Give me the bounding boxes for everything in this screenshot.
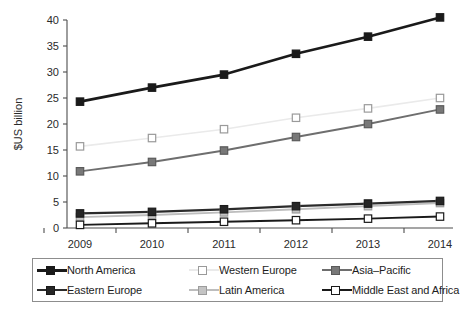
series-line-western-europe (80, 98, 440, 146)
data-point-eastern-europe (148, 208, 155, 215)
data-point-eastern-europe (292, 202, 299, 209)
legend-square-swatch (198, 286, 207, 295)
data-point-north-america (292, 50, 299, 57)
legend-item-latin-america[interactable]: Latin America (189, 281, 322, 299)
data-point-asia-pacific (436, 106, 443, 113)
legend-item-asia-pacific[interactable]: Asia–Pacific (322, 261, 448, 279)
x-tick-label: 2009 (68, 238, 92, 250)
line-chart: 0510152025303540200920102011201220132014… (0, 0, 475, 313)
data-point-asia-pacific (364, 120, 371, 127)
data-point-eastern-europe (76, 210, 83, 217)
legend-square-swatch (331, 286, 340, 295)
y-tick-label: 40 (47, 14, 59, 26)
x-tick-label: 2014 (428, 238, 452, 250)
y-tick-label: 5 (53, 196, 59, 208)
legend-square-swatch (331, 266, 340, 275)
series-line-north-america (80, 17, 440, 101)
legend-label: Eastern Europe (67, 284, 142, 296)
data-point-western-europe (148, 134, 155, 141)
data-point-western-europe (436, 94, 443, 101)
y-tick-label: 35 (47, 40, 59, 52)
legend-label: North America (67, 264, 135, 276)
data-point-asia-pacific (292, 133, 299, 140)
y-axis-title: $US billion (12, 98, 24, 151)
legend-label: Western Europe (219, 264, 297, 276)
y-tick-label: 30 (47, 66, 59, 78)
data-point-eastern-europe (436, 197, 443, 204)
chart-legend: North AmericaWestern EuropeAsia–PacificE… (32, 258, 443, 302)
legend-square-swatch (46, 266, 55, 275)
legend-label: Middle East and Africa (352, 284, 459, 296)
y-tick-label: 0 (53, 222, 59, 234)
data-point-middle-east-and-africa (364, 215, 371, 222)
data-point-middle-east-and-africa (76, 221, 83, 228)
x-tick-label: 2010 (140, 238, 164, 250)
data-point-north-america (364, 33, 371, 40)
legend-marker-asia-pacific-icon (322, 263, 352, 277)
legend-square-swatch (198, 266, 207, 275)
y-tick-label: 25 (47, 92, 59, 104)
data-point-middle-east-and-africa (436, 213, 443, 220)
y-tick-label: 10 (47, 170, 59, 182)
legend-square-swatch (46, 286, 55, 295)
data-point-middle-east-and-africa (148, 220, 155, 227)
data-point-asia-pacific (76, 168, 83, 175)
x-tick-label: 2013 (356, 238, 380, 250)
legend-marker-western-europe-icon (189, 263, 219, 277)
legend-item-eastern-europe[interactable]: Eastern Europe (37, 281, 189, 299)
legend-label: Asia–Pacific (352, 264, 411, 276)
data-point-western-europe (364, 105, 371, 112)
legend-item-middle-east-and-africa[interactable]: Middle East and Africa (322, 281, 448, 299)
data-point-north-america (148, 84, 155, 91)
data-point-western-europe (220, 126, 227, 133)
data-point-asia-pacific (220, 147, 227, 154)
data-point-north-america (436, 14, 443, 21)
legend-item-north-america[interactable]: North America (37, 261, 189, 279)
data-point-eastern-europe (364, 200, 371, 207)
data-point-eastern-europe (220, 206, 227, 213)
data-point-western-europe (76, 143, 83, 150)
x-tick-label: 2012 (284, 238, 308, 250)
legend-marker-middle-east-and-africa-icon (322, 283, 352, 297)
data-point-asia-pacific (148, 158, 155, 165)
y-tick-label: 20 (47, 118, 59, 130)
series-line-latin-america (80, 203, 440, 217)
y-tick-label: 15 (47, 144, 59, 156)
data-point-north-america (76, 98, 83, 105)
x-tick-label: 2011 (212, 238, 236, 250)
legend-item-western-europe[interactable]: Western Europe (189, 261, 322, 279)
data-point-western-europe (292, 114, 299, 121)
data-point-middle-east-and-africa (292, 217, 299, 224)
data-point-north-america (220, 71, 227, 78)
legend-marker-eastern-europe-icon (37, 283, 67, 297)
legend-marker-north-america-icon (37, 263, 67, 277)
legend-label: Latin America (219, 284, 284, 296)
series-line-middle-east-and-africa (80, 217, 440, 225)
data-point-middle-east-and-africa (220, 218, 227, 225)
legend-marker-latin-america-icon (189, 283, 219, 297)
